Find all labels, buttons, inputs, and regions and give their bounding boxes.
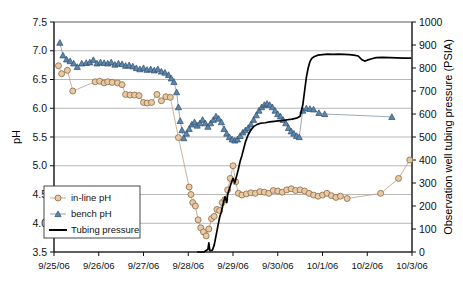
chart-figure: 3.54.04.55.05.56.06.57.07.50100200300400… <box>0 0 463 289</box>
x-axis-tick-label: 9/28/06 <box>172 260 204 271</box>
data-point-bench-ph <box>175 104 181 110</box>
data-point-bench-ph <box>90 57 96 63</box>
data-point-inline-ph <box>337 193 343 199</box>
x-axis-tick-label: 9/30/06 <box>262 260 294 271</box>
x-axis-tick-label: 10/3/06 <box>396 260 428 271</box>
y2-axis-tick-label: 300 <box>419 177 437 189</box>
x-axis-tick-label: 9/29/06 <box>217 260 249 271</box>
x-axis-tick-label: 9/27/06 <box>128 260 160 271</box>
data-point-bench-ph <box>57 40 63 46</box>
y2-axis-title: Observation well tubing pressure (PSIA) <box>442 39 454 235</box>
y-axis-tick-label: 6.5 <box>32 73 47 85</box>
y-axis-tick-label: 7.0 <box>32 44 47 56</box>
data-point-inline-ph <box>195 217 201 223</box>
x-axis-tick-label: 10/2/06 <box>351 260 383 271</box>
data-point-inline-ph <box>55 63 61 69</box>
series-line-tubing-pressure <box>197 54 411 252</box>
data-point-inline-ph <box>192 203 198 209</box>
data-point-inline-ph <box>175 135 181 141</box>
legend-label: bench pH <box>71 208 112 219</box>
data-point-inline-ph <box>188 192 194 198</box>
y2-axis-tick-label: 200 <box>419 200 437 212</box>
data-point-inline-ph <box>396 175 402 181</box>
data-point-inline-ph <box>154 91 160 97</box>
legend-label: in-line pH <box>71 192 111 203</box>
chart-canvas: 3.54.04.55.05.56.06.57.07.50100200300400… <box>0 0 463 289</box>
data-point-inline-ph <box>186 184 192 190</box>
data-point-bench-ph <box>177 118 183 124</box>
data-point-inline-ph <box>59 71 65 77</box>
data-point-bench-ph <box>174 89 180 95</box>
data-point-bench-ph <box>60 52 66 58</box>
x-axis-tick-label: 9/26/06 <box>83 260 115 271</box>
y-axis-tick-label: 7.5 <box>32 16 47 28</box>
data-point-inline-ph <box>64 67 70 73</box>
series-line-bench-ph <box>60 43 392 141</box>
data-point-bench-ph <box>179 127 185 133</box>
data-point-inline-ph <box>206 226 212 232</box>
y-axis-tick-label: 3.5 <box>32 246 47 258</box>
data-point-inline-ph <box>203 233 209 239</box>
x-axis-tick-label: 9/25/06 <box>38 260 70 271</box>
y2-axis-tick-label: 0 <box>419 246 425 258</box>
y2-axis-tick-label: 700 <box>419 85 437 97</box>
x-axis-tick-label: 10/1/06 <box>307 260 339 271</box>
y-axis-tick-label: 5.0 <box>32 159 47 171</box>
y2-axis-tick-label: 900 <box>419 39 437 51</box>
data-point-inline-ph <box>149 100 155 106</box>
y-axis-tick-label: 6.0 <box>32 102 47 114</box>
data-point-inline-ph <box>136 93 142 99</box>
y2-axis-tick-label: 500 <box>419 131 437 143</box>
y2-axis-tick-label: 100 <box>419 223 437 235</box>
data-point-inline-ph <box>211 213 217 219</box>
data-point-inline-ph <box>344 196 350 202</box>
y2-axis-tick-label: 600 <box>419 108 437 120</box>
y2-axis-tick-label: 400 <box>419 154 437 166</box>
data-point-inline-ph <box>167 94 173 100</box>
y-axis-title: pH <box>10 130 22 144</box>
y2-axis-tick-label: 800 <box>419 62 437 74</box>
data-point-inline-ph <box>70 88 76 94</box>
legend-marker-inline-ph <box>55 195 61 201</box>
y-axis-tick-label: 5.5 <box>32 131 47 143</box>
y2-axis-tick-label: 1000 <box>419 16 443 28</box>
data-point-inline-ph <box>230 163 236 169</box>
data-point-bench-ph <box>316 110 322 116</box>
data-point-inline-ph <box>407 157 413 163</box>
legend-label: Tubing pressure <box>71 224 139 235</box>
data-point-inline-ph <box>119 82 125 88</box>
data-point-inline-ph <box>378 190 384 196</box>
